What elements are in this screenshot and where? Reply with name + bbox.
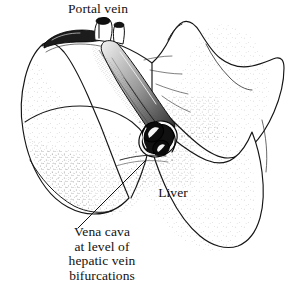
label-vena-cava-line-3: hepatic vein (26, 254, 178, 269)
label-vena-cava-line-1: Vena cava (26, 225, 178, 240)
label-portal-vein: Portal vein (0, 2, 196, 17)
portal-vein-stump-center-lumen (96, 18, 110, 25)
portal-vein-stump-right-lumen (114, 22, 124, 27)
label-vena-cava-line-4: bifurcations (26, 269, 178, 284)
label-vena-cava-line-2: at level of (26, 240, 178, 255)
label-liver: Liver (133, 186, 213, 201)
liver-anatomy-figure: Portal vein Liver Vena cava at level of … (0, 0, 288, 296)
label-vena-cava: Vena cava at level of hepatic vein bifur… (26, 225, 178, 283)
